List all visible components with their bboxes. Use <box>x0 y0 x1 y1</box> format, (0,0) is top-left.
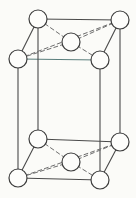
atom-bot-front-left: bottom front left corner <box>9 169 27 187</box>
atom-bot-face-center: bottom face centre atom <box>62 153 80 171</box>
atom-bot-front-right: bottom front right corner <box>91 171 109 189</box>
unit-cell-figure: top back left cornertop back right corne… <box>0 0 136 198</box>
bottom-back-edge <box>38 139 120 142</box>
top-back-edge <box>38 19 120 20</box>
bottom-front-edge <box>18 178 100 180</box>
atom-top-face-center: top face centre atom <box>62 33 80 51</box>
lattice-diagram: top back left cornertop back right corne… <box>0 0 136 198</box>
atom-top-front-left: top front left corner <box>9 50 27 68</box>
atom-top-front-right: top front right corner <box>91 51 109 69</box>
atom-top-back-right: top back right corner <box>111 11 129 29</box>
atom-bot-back-right: bottom back right corner <box>111 133 129 151</box>
atom-top-back-left: top back left corner <box>29 10 47 28</box>
atom-bot-back-left: bottom back left corner <box>29 130 47 148</box>
top-front-edge <box>18 59 100 60</box>
